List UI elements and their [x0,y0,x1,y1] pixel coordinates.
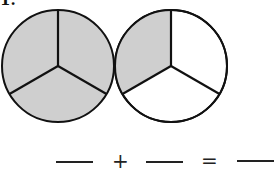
circle-1 [2,10,114,122]
circle-2 [115,10,227,122]
equals-sign: = [201,149,218,169]
plus-sign: + [112,149,129,169]
answer-blank-3[interactable] [237,160,274,162]
fraction-circles-figure [0,0,278,171]
answer-blank-2[interactable] [146,161,183,163]
answer-blank-1[interactable] [56,161,93,163]
